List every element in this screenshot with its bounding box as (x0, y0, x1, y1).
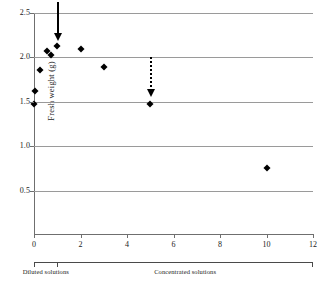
y-tick-label: 0.5 (2, 187, 30, 195)
x-tick-mark (267, 234, 268, 238)
category-label: Concentrated solutions (154, 268, 216, 276)
plot-area (34, 13, 313, 235)
y-tick-mark (30, 191, 34, 192)
gridline-y (34, 191, 313, 192)
x-tick-label: 6 (164, 240, 184, 249)
y-tick-mark (30, 102, 34, 103)
x-tick-mark (127, 234, 128, 238)
y-tick-label-wrap: 2.0 (0, 53, 30, 61)
y-tick-label-wrap: 1.0 (0, 142, 30, 150)
category-bracket-tick (57, 262, 58, 267)
x-tick-label: 12 (303, 240, 323, 249)
y-tick-label-wrap: 1.5 (0, 98, 30, 106)
arrow-shaft (150, 57, 152, 89)
x-tick-mark (81, 234, 82, 238)
gridline-y (34, 102, 313, 103)
data-point-marker (100, 64, 107, 71)
arrow-shaft (57, 2, 59, 32)
gridline-y (34, 57, 313, 58)
x-tick-mark (220, 234, 221, 238)
category-label: Diluted solutions (23, 268, 69, 276)
y-tick-label-wrap: 0.5 (0, 187, 30, 195)
gridline-y (34, 146, 313, 147)
x-tick-label: 8 (210, 240, 230, 249)
x-tick-label: 4 (117, 240, 137, 249)
x-tick-mark (34, 234, 35, 238)
category-bracket (57, 262, 313, 263)
data-point-marker (77, 45, 84, 52)
arrow-head-icon (54, 33, 62, 41)
y-tick-mark (30, 146, 34, 147)
category-bracket (34, 262, 57, 263)
x-tick-label: 10 (257, 240, 277, 249)
x-tick-label: 2 (71, 240, 91, 249)
gridline-y (34, 13, 313, 14)
category-bracket-tick (312, 262, 313, 267)
arrow-head-icon (147, 89, 155, 97)
data-point-marker (32, 88, 39, 95)
x-tick-mark (174, 234, 175, 238)
y-tick-label: 1.0 (2, 142, 30, 150)
data-point-marker (263, 165, 270, 172)
y-tick-label: 1.5 (2, 98, 30, 106)
scatter-chart: Fresh weight (g) 0.51.01.52.02.5 0246810… (0, 0, 330, 281)
data-point-marker (54, 42, 61, 49)
y-tick-label: 2.5 (2, 9, 30, 17)
x-tick-label: 0 (24, 240, 44, 249)
category-bracket-tick (34, 262, 35, 267)
data-point-marker (36, 66, 43, 73)
y-tick-mark (30, 57, 34, 58)
y-tick-mark (30, 13, 34, 14)
y-tick-label-wrap: 2.5 (0, 9, 30, 17)
y-tick-label: 2.0 (2, 53, 30, 61)
x-tick-mark (313, 234, 314, 238)
